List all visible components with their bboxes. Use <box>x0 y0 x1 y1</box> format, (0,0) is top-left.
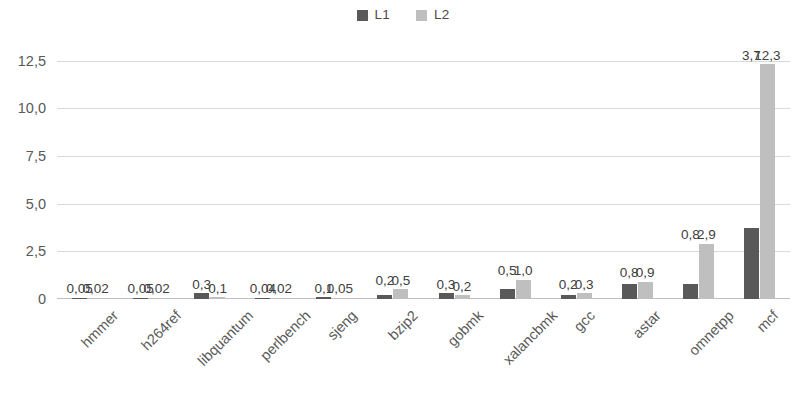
bar-pair: 0,040,02 <box>240 51 301 299</box>
y-axis-tick-label: 12,5 <box>18 53 46 68</box>
bar-pair: 0,10,05 <box>301 51 362 299</box>
square-swatch-icon <box>416 10 427 21</box>
bar-value-label: 0,02 <box>266 282 292 296</box>
bar-pair: 0,20,3 <box>546 51 607 299</box>
bar-pair: 3,712,3 <box>729 51 790 299</box>
bar-pair: 0,20,5 <box>362 51 423 299</box>
bar-l2[interactable]: 1,0 <box>516 280 531 299</box>
bar-pair: 0,30,2 <box>423 51 484 299</box>
y-axis-tick-label: 0 <box>38 292 46 307</box>
bar-value-label: 0,3 <box>575 278 594 292</box>
x-axis-cell: xalancbmk <box>485 300 546 397</box>
x-axis-cell: sjeng <box>301 300 362 397</box>
legend-label: L2 <box>434 8 449 22</box>
y-axis: 02,55,07,510,012,5 <box>0 0 57 397</box>
bar-value-label: 0,2 <box>453 280 472 294</box>
bar-value-label: 2,9 <box>697 228 716 242</box>
x-axis-tick-label: gcc <box>571 308 597 334</box>
x-axis-cell: bzip2 <box>362 300 423 397</box>
bar-pair: 0,050,02 <box>118 51 179 299</box>
bar-value-label: 0,9 <box>636 266 655 280</box>
bar-l1[interactable]: 0,05 <box>72 298 87 299</box>
y-axis-tick-label: 10,0 <box>18 101 46 116</box>
bar-l2[interactable]: 0,05 <box>332 298 347 299</box>
bar-l2[interactable]: 0,1 <box>210 297 225 299</box>
chart-legend: L1 L2 <box>0 4 806 26</box>
bar-value-label: 0,02 <box>82 282 108 296</box>
x-axis-cell: astar <box>607 300 668 397</box>
bar-l1[interactable]: 0,2 <box>377 295 392 299</box>
bar-l2[interactable]: 0,02 <box>88 298 103 299</box>
square-swatch-icon <box>357 10 368 21</box>
legend-entry-l2[interactable]: L2 <box>416 8 449 22</box>
bar-l1[interactable]: 3,7 <box>744 228 759 299</box>
x-axis-tick-label: bzip2 <box>386 308 421 343</box>
x-axis-tick-label: sjeng <box>325 308 360 343</box>
x-axis-cell: perlbench <box>240 300 301 397</box>
x-axis-tick-label: h264ref <box>138 308 183 353</box>
y-axis-tick-label: 7,5 <box>26 149 46 164</box>
bar-chart: L1 L2 02,55,07,510,012,5 0,050,020,050,0… <box>0 0 806 397</box>
bar-group: 0,050,02 <box>118 51 179 299</box>
x-axis-tick-label: astar <box>631 308 664 341</box>
bar-pair: 0,80,9 <box>607 51 668 299</box>
bar-group: 0,51,0 <box>485 51 546 299</box>
bar-pair: 0,51,0 <box>485 51 546 299</box>
bar-value-label: 1,0 <box>514 264 533 278</box>
x-axis-cell: libquantum <box>179 300 240 397</box>
bar-value-label: 0,02 <box>143 282 169 296</box>
bar-l1[interactable]: 0,3 <box>194 293 209 299</box>
bar-group: 0,30,1 <box>179 51 240 299</box>
x-axis-tick-label: hmmer <box>78 308 120 350</box>
bar-l1[interactable]: 0,3 <box>439 293 454 299</box>
bar-group: 0,20,5 <box>362 51 423 299</box>
bar-group: 0,30,2 <box>423 51 484 299</box>
x-axis-tick-label: mcf <box>755 308 782 335</box>
bar-group: 0,20,3 <box>546 51 607 299</box>
x-axis-cell: h264ref <box>118 300 179 397</box>
bar-l1[interactable]: 0,5 <box>500 289 515 299</box>
bar-l1[interactable]: 0,05 <box>133 298 148 299</box>
bar-group: 3,712,3 <box>729 51 790 299</box>
bar-l1[interactable]: 0,8 <box>622 284 637 299</box>
bar-l2[interactable]: 0,3 <box>577 293 592 299</box>
x-axis-cell: mcf <box>729 300 790 397</box>
bar-group: 0,10,05 <box>301 51 362 299</box>
x-axis-cell: gcc <box>546 300 607 397</box>
bar-group: 0,050,02 <box>57 51 118 299</box>
x-axis-cell: omnetpp <box>668 300 729 397</box>
bar-l1[interactable]: 0,1 <box>316 297 331 299</box>
bar-group: 0,82,9 <box>668 51 729 299</box>
bar-l2[interactable]: 0,5 <box>393 289 408 299</box>
legend-entry-l1[interactable]: L1 <box>357 8 390 22</box>
bar-group: 0,040,02 <box>240 51 301 299</box>
bar-l2[interactable]: 2,9 <box>699 244 714 299</box>
bar-pair: 0,050,02 <box>57 51 118 299</box>
y-axis-tick-label: 5,0 <box>26 196 46 211</box>
x-axis-tick-label: gobmk <box>445 308 486 349</box>
bar-l1[interactable]: 0,04 <box>255 298 270 299</box>
legend-label: L1 <box>375 8 390 22</box>
x-axis-cell: gobmk <box>423 300 484 397</box>
x-axis: hmmerh264reflibquantumperlbenchsjengbzip… <box>57 300 790 397</box>
bar-groups: 0,050,020,050,020,30,10,040,020,10,050,2… <box>57 51 790 299</box>
bar-l2[interactable]: 12,3 <box>760 64 775 299</box>
bar-l2[interactable]: 0,02 <box>271 298 286 299</box>
y-axis-tick-label: 2,5 <box>26 244 46 259</box>
bar-pair: 0,82,9 <box>668 51 729 299</box>
bar-l2[interactable]: 0,02 <box>149 298 164 299</box>
bar-l1[interactable]: 0,2 <box>561 295 576 299</box>
bar-value-label: 0,05 <box>327 282 353 296</box>
x-axis-cell: hmmer <box>57 300 118 397</box>
bar-l2[interactable]: 0,9 <box>638 282 653 299</box>
bar-l2[interactable]: 0,2 <box>455 295 470 299</box>
bar-l1[interactable]: 0,8 <box>683 284 698 299</box>
bar-value-label: 12,3 <box>754 49 780 63</box>
bar-value-label: 0,5 <box>392 274 411 288</box>
bar-value-label: 0,1 <box>208 282 227 296</box>
bar-pair: 0,30,1 <box>179 51 240 299</box>
bar-group: 0,80,9 <box>607 51 668 299</box>
